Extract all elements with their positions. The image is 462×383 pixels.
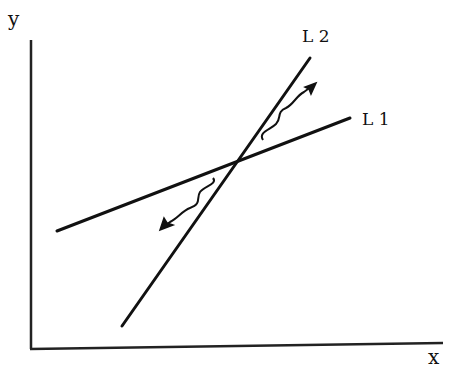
wavy-arrow-shaft-icon: [164, 178, 214, 226]
upward-shift-arrow: [262, 83, 316, 140]
x-axis: [30, 343, 443, 349]
y-axis-label: y: [7, 7, 20, 31]
x-axis-label: x: [428, 345, 440, 369]
line-l2: [122, 58, 310, 326]
arrowhead-icon: [305, 83, 316, 94]
line-l2-label: L 2: [302, 26, 330, 46]
arrowhead-icon: [160, 218, 173, 230]
diagram-canvas: y x L 1 L 2: [0, 0, 462, 383]
line-l1-label: L 1: [362, 109, 390, 129]
wavy-arrow-shaft-icon: [262, 86, 312, 140]
line-l1: [57, 118, 350, 231]
